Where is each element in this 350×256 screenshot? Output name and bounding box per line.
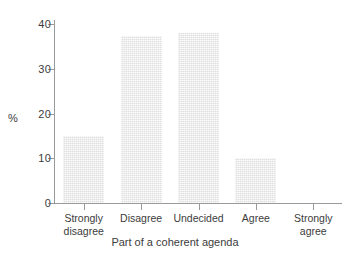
x-tick xyxy=(141,204,142,210)
x-tick xyxy=(313,204,314,210)
y-tick-label-0: 0 xyxy=(11,198,51,209)
bar xyxy=(235,158,276,203)
x-category-label: Disagree xyxy=(112,212,169,225)
x-category-label: Undecided xyxy=(170,212,227,225)
bar-chart: % 010203040 Strongly disagreeDisagreeUnd… xyxy=(0,0,350,256)
y-tick-label-40: 40 xyxy=(11,19,51,30)
x-tick xyxy=(84,204,85,210)
bar xyxy=(121,36,162,203)
bar xyxy=(63,136,104,203)
x-category-label: Agree xyxy=(227,212,284,225)
x-axis-title: Part of a coherent agenda xyxy=(0,236,350,248)
y-tick-label-10: 10 xyxy=(11,153,51,164)
y-tick-label-30: 30 xyxy=(11,64,51,75)
x-tick xyxy=(256,204,257,210)
x-axis-line xyxy=(54,203,342,204)
y-tick-label-20: 20 xyxy=(11,109,51,120)
plot-area xyxy=(55,20,342,203)
x-tick xyxy=(199,204,200,210)
x-category-label: Strongly agree xyxy=(285,212,342,237)
x-category-label: Strongly disagree xyxy=(55,212,112,237)
bar xyxy=(178,33,219,203)
